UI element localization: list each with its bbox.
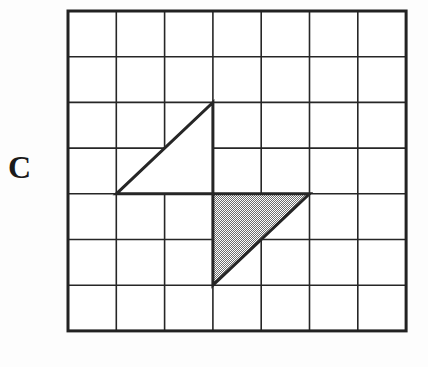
figure-label: C	[8, 146, 48, 188]
diagram-title: C	[0, 0, 1, 1]
grid-diagram-svg	[60, 3, 416, 341]
figure-panel: C C	[0, 0, 428, 367]
grid-background	[68, 11, 406, 331]
grid-diagram	[60, 3, 416, 341]
